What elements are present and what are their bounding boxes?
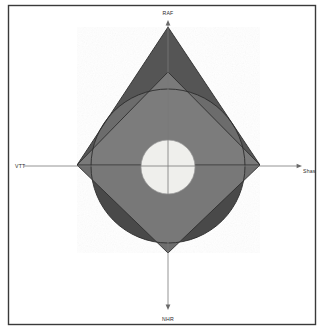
axis-label-right: Shas bbox=[303, 168, 316, 174]
axis-label-bottom: NHR bbox=[162, 316, 174, 322]
axis-label-top: RAF bbox=[163, 10, 174, 16]
figure-root: RAF NHR VTT Shas bbox=[0, 0, 324, 332]
axis-label-left: VTT bbox=[15, 163, 26, 169]
diagram-canvas: RAF NHR VTT Shas bbox=[0, 0, 324, 332]
